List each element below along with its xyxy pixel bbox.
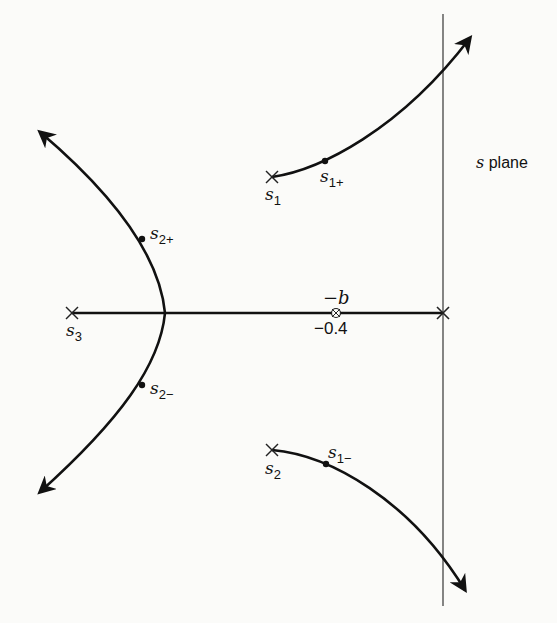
point-s2-plus-dot bbox=[139, 236, 145, 242]
label-sub: 1− bbox=[337, 451, 352, 466]
label-sub: 2− bbox=[159, 387, 174, 402]
label-sub: 2 bbox=[274, 467, 281, 482]
label-base: s bbox=[265, 184, 274, 204]
label-s2-minus: s2− bbox=[150, 380, 174, 401]
label-base: s bbox=[265, 458, 274, 478]
label-base: s bbox=[150, 223, 159, 243]
point-s1-plus-dot bbox=[322, 158, 328, 164]
plane-var: s bbox=[476, 153, 484, 172]
label-s1-minus: s1− bbox=[328, 444, 352, 465]
label-base: s bbox=[328, 442, 337, 462]
label-sub: 1 bbox=[274, 193, 281, 208]
branch-lower-left bbox=[40, 313, 165, 492]
point-s2-minus-dot bbox=[139, 382, 145, 388]
branch-upper-left bbox=[40, 132, 165, 313]
label-minus-b: −b bbox=[323, 289, 350, 307]
label-sub: 2+ bbox=[159, 232, 174, 247]
label-minus-0-4: −0.4 bbox=[314, 320, 348, 337]
branch-from-s2 bbox=[272, 450, 465, 590]
label-sub: 1+ bbox=[329, 175, 344, 190]
label-s2: s2 bbox=[265, 460, 281, 481]
plane-word: plane bbox=[489, 154, 528, 171]
label-s3: s3 bbox=[66, 322, 82, 343]
label-base: s bbox=[66, 320, 75, 340]
zero-pole-mark bbox=[332, 309, 341, 318]
label-base: s bbox=[320, 166, 329, 186]
label-s1-plus: s1+ bbox=[320, 168, 344, 189]
label-s1: s1 bbox=[265, 186, 281, 207]
label-base: s bbox=[150, 378, 159, 398]
label-sub: 3 bbox=[75, 329, 82, 344]
root-locus-diagram bbox=[0, 0, 557, 623]
label-s2-plus: s2+ bbox=[150, 225, 174, 246]
branch-from-s1 bbox=[272, 38, 470, 177]
s-plane-label: s plane bbox=[476, 155, 528, 171]
